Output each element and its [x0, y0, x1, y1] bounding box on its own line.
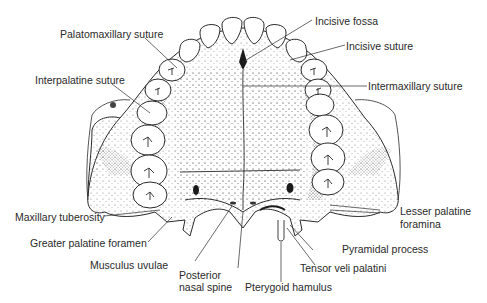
palate-diagram: Incisive fossa Palatomaxillary suture In… — [0, 0, 487, 303]
label-tensor-veli-palatini: Tensor veli palatini — [300, 262, 386, 274]
label-posterior-nasal-spine-line1: Posterior — [179, 269, 221, 281]
label-lesser-palatine-foramina-line2: foramina — [400, 218, 441, 230]
label-musculus-uvulae: Musculus uvulae — [90, 259, 168, 271]
label-pyramidal-process: Pyramidal process — [342, 243, 428, 255]
label-lesser-palatine-foramina-line1: Lesser palatine — [400, 205, 471, 217]
label-intermaxillary-suture: Intermaxillary suture — [368, 80, 463, 92]
palate-illustration — [0, 0, 487, 303]
label-incisive-fossa: Incisive fossa — [315, 15, 378, 27]
palatal-vault — [175, 68, 305, 201]
label-greater-palatine-foramen: Greater palatine foramen — [30, 237, 147, 249]
label-palatomaxillary-suture: Palatomaxillary suture — [60, 28, 163, 40]
label-maxillary-tuberosity: Maxillary tuberosity — [15, 211, 105, 223]
label-incisive-suture: Incisive suture — [346, 40, 413, 52]
label-interpalatine-suture: Interpalatine suture — [35, 74, 125, 86]
label-posterior-nasal-spine-line2: nasal spine — [179, 281, 232, 293]
label-pterygoid-hamulus: Pterygoid hamulus — [245, 281, 332, 293]
